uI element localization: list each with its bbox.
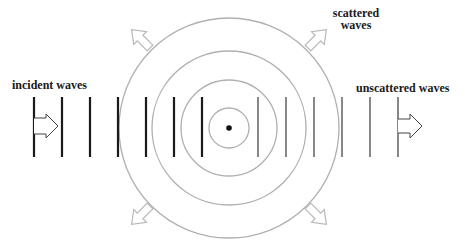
incident-waves-label: incident waves (12, 79, 87, 91)
scattered-waves-label: scattered waves (325, 7, 387, 31)
incident-wavefronts (34, 97, 202, 157)
scatterer-dot-icon (226, 125, 232, 131)
scattered-arrow-down-right-icon (302, 200, 333, 231)
incident-arrow-icon (34, 114, 58, 138)
scattered-waves-label-line2: waves (325, 19, 387, 31)
unscattered-arrow-icon (398, 114, 422, 138)
unscattered-wavefronts (258, 97, 398, 157)
scattered-arrow-down-left-icon (125, 200, 156, 231)
scattering-diagram (0, 0, 465, 250)
unscattered-waves-label: unscattered waves (356, 82, 449, 94)
